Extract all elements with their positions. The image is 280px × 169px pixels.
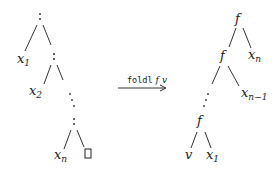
consn-dot-top bbox=[73, 118, 75, 120]
label-x1: x1 bbox=[17, 51, 30, 68]
nil-icon bbox=[85, 149, 91, 158]
left-cons-tree: x1 x2 xn bbox=[17, 13, 91, 164]
right-f-tree: f xn f xn−1 f v x1 bbox=[185, 11, 267, 164]
edge-cons2-dots bbox=[57, 65, 63, 80]
label-xn1: xn−1 bbox=[241, 85, 267, 102]
cons2-dot-top bbox=[53, 53, 55, 55]
right-ellipsis-dot-3 bbox=[203, 105, 205, 107]
edge-ftop-fsecond bbox=[229, 28, 236, 47]
arrow-label: foldlfv bbox=[127, 75, 167, 85]
foldl-diagram: x1 x2 xn foldlfv f xn f xn−1 bbox=[0, 0, 280, 169]
foldl-arrow: foldlfv bbox=[118, 75, 167, 91]
edge-fsecond-xn1 bbox=[228, 66, 239, 86]
edge-fbottom-v bbox=[191, 132, 197, 148]
label-x2: x2 bbox=[29, 83, 42, 100]
consn-dot-bottom bbox=[73, 123, 75, 125]
label-xn-right: xn bbox=[248, 47, 261, 64]
cons-root-dot-top bbox=[39, 13, 41, 15]
edge-consn-nil bbox=[77, 130, 84, 147]
label-v: v bbox=[185, 147, 193, 162]
label-xn: xn bbox=[54, 147, 67, 164]
ellipsis-dot-3 bbox=[73, 105, 75, 107]
edge-consn-xn bbox=[64, 130, 71, 149]
ellipsis-dot-1 bbox=[69, 93, 71, 95]
ellipsis-dot-2 bbox=[71, 99, 73, 101]
label-x1-right: x1 bbox=[206, 147, 219, 164]
edge-cons2-x2 bbox=[44, 65, 51, 84]
edge-ftop-xn bbox=[243, 28, 251, 48]
label-f-top: f bbox=[234, 11, 242, 26]
cons2-dot-bottom bbox=[53, 58, 55, 60]
edge-fsecond-dots bbox=[212, 66, 220, 84]
label-f-bottom: f bbox=[196, 113, 204, 128]
right-ellipsis-dot-2 bbox=[205, 99, 207, 101]
cons-root-dot-bottom bbox=[39, 18, 41, 20]
label-f-second: f bbox=[219, 48, 227, 63]
right-ellipsis-dot-1 bbox=[207, 93, 209, 95]
edge-fbottom-x1 bbox=[205, 132, 211, 148]
edge-root-x1 bbox=[25, 25, 37, 51]
edge-root-cons2 bbox=[43, 25, 51, 45]
